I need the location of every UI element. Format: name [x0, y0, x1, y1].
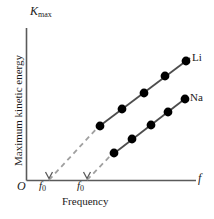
li-extrapolation-dashed	[49, 126, 99, 180]
li-data-point	[118, 105, 127, 114]
li-data-point	[182, 57, 191, 66]
f0-na-subscript: 0	[80, 184, 84, 193]
f0-li-subscript: 0	[42, 184, 46, 193]
y-axis-symbol-subscript: max	[38, 10, 52, 19]
f0-na-label: f0	[77, 180, 84, 193]
chart-canvas	[0, 0, 214, 219]
f0-li-label: f0	[39, 180, 46, 193]
na-data-point	[181, 95, 190, 104]
photoelectric-effect-chart: Kmax Maximum kinetic energy O f0 f0 f Fr…	[0, 0, 214, 219]
na-extrapolation-dashed	[87, 152, 114, 180]
na-data-point	[128, 135, 137, 144]
x-axis-symbol: f	[198, 172, 201, 184]
series-label-li: Li	[192, 52, 202, 63]
na-data-point	[147, 121, 156, 130]
na-data-point	[110, 149, 119, 158]
li-data-point	[140, 89, 149, 98]
y-axis-symbol: Kmax	[30, 5, 52, 19]
li-data-point	[96, 122, 105, 131]
na-data-point	[164, 108, 173, 117]
y-axis-title: Maximum kinetic energy	[13, 41, 24, 181]
series-label-na: Na	[190, 92, 203, 103]
li-data-point	[161, 72, 170, 81]
x-axis-title: Frequency	[62, 196, 108, 207]
origin-label: O	[17, 180, 26, 192]
y-axis-symbol-main: K	[30, 4, 38, 18]
